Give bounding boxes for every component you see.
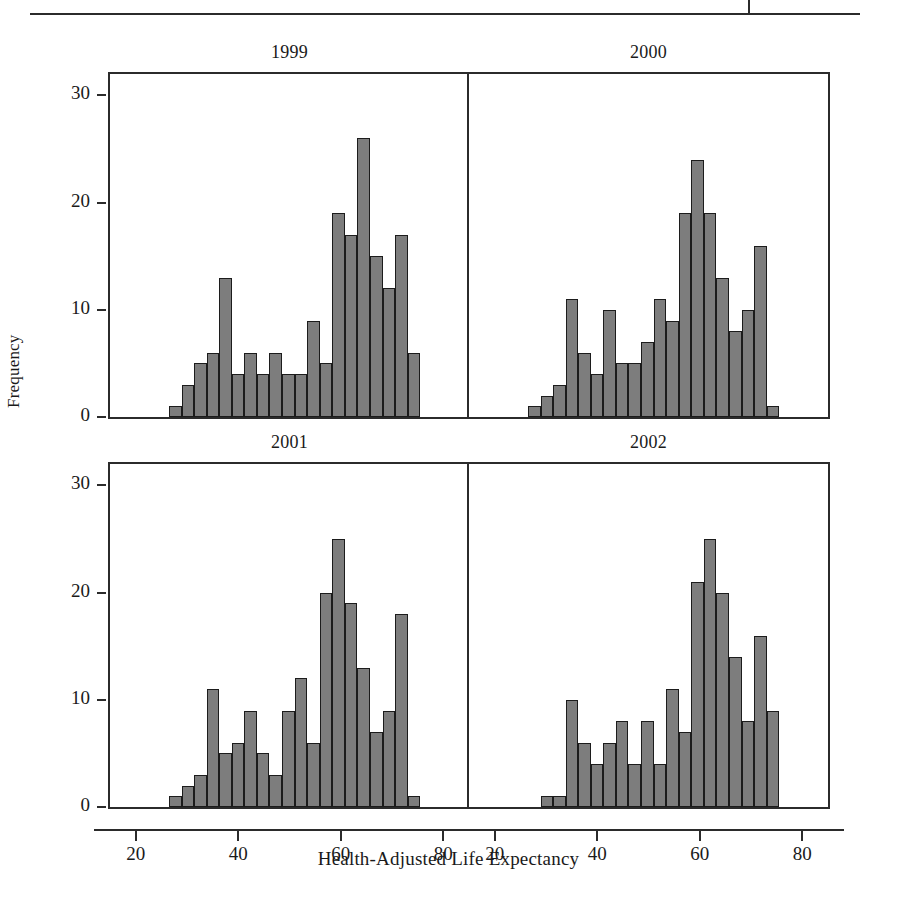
histogram-bar [169, 796, 182, 807]
histogram-bar [244, 353, 257, 417]
y-axis-tick [97, 309, 106, 311]
histogram-bar [528, 406, 541, 417]
histogram-bar [716, 593, 729, 807]
histogram-bar [591, 764, 604, 807]
histogram-bar [383, 711, 396, 807]
x-axis-tick-label: 60 [680, 843, 720, 865]
histogram-bar [244, 711, 257, 807]
plot-area-2002 [467, 462, 830, 809]
histogram-bar [767, 406, 780, 417]
plot-area-2000 [467, 72, 830, 419]
histogram-bar [332, 213, 345, 417]
x-axis-tick [442, 831, 444, 841]
histogram-bar [219, 753, 232, 807]
histogram-bar [691, 582, 704, 807]
y-axis-tick [97, 699, 106, 701]
histogram-bar [641, 342, 654, 417]
histogram-bar [729, 657, 742, 807]
histogram-bar [553, 796, 566, 807]
histogram-bar [320, 363, 333, 417]
histogram-bar [395, 235, 408, 417]
histogram-bar [207, 353, 220, 417]
x-axis-tick [237, 831, 239, 841]
histogram-bar [691, 160, 704, 417]
bar-series-1999 [110, 74, 469, 417]
panel-2000: 2000 [467, 42, 830, 489]
y-axis-tick-label: 20 [50, 190, 90, 212]
histogram-bar [729, 331, 742, 417]
histogram-bar [541, 796, 554, 807]
bar-series-2001 [110, 464, 469, 807]
histogram-bar [194, 363, 207, 417]
histogram-bar [194, 775, 207, 807]
histogram-bar [679, 213, 692, 417]
y-axis-tick [97, 416, 106, 418]
histogram-bar [578, 353, 591, 417]
histogram-bar [345, 235, 358, 417]
histogram-bar [679, 732, 692, 807]
histogram-bar [616, 363, 629, 417]
panel-1999: 19990102030 [108, 42, 471, 489]
histogram-bar [332, 539, 345, 807]
histogram-bar [754, 246, 767, 418]
histogram-bar [616, 721, 629, 807]
panel-2001: 2001010203020406080 [108, 432, 471, 879]
panel-title-2001: 2001 [108, 432, 471, 453]
plot-area-1999 [108, 72, 471, 419]
y-axis-tick [97, 592, 106, 594]
bar-series-2002 [469, 464, 828, 807]
histogram-bar [219, 278, 232, 417]
y-axis-tick [97, 202, 106, 204]
panel-2002: 200220406080 [467, 432, 830, 879]
histogram-bar [628, 764, 641, 807]
x-axis-tick [494, 831, 496, 841]
histogram-bar [553, 385, 566, 417]
histogram-bar [742, 721, 755, 807]
histogram-bar [716, 278, 729, 417]
histogram-bar [628, 363, 641, 417]
histogram-bar [269, 353, 282, 417]
histogram-bar [603, 743, 616, 807]
histogram-bar [282, 711, 295, 807]
histogram-bar [742, 310, 755, 417]
histogram-bar [370, 256, 383, 417]
y-axis-tick-label: 30 [50, 472, 90, 494]
x-axis-tick-label: 80 [423, 843, 463, 865]
histogram-bar [232, 743, 245, 807]
y-axis-tick [97, 94, 106, 96]
x-axis-tick-label: 60 [321, 843, 361, 865]
histogram-bar [566, 700, 579, 807]
y-axis-tick [97, 484, 106, 486]
bar-series-2000 [469, 74, 828, 417]
histogram-bar [307, 321, 320, 417]
histogram-bar [654, 764, 667, 807]
y-axis-tick-label: 0 [50, 794, 90, 816]
histogram-bar [566, 299, 579, 417]
histogram-bar [257, 374, 270, 417]
x-axis-tick [699, 831, 701, 841]
histogram-bar [345, 603, 358, 807]
histogram-bar [295, 374, 308, 417]
histogram-bar [357, 138, 370, 417]
histogram-bar [578, 743, 591, 807]
y-axis-tick-label: 20 [50, 580, 90, 602]
histogram-bar [654, 299, 667, 417]
histogram-bar [704, 213, 717, 417]
histogram-bar [169, 406, 182, 417]
histogram-bar [408, 796, 421, 807]
x-axis-tick-label: 40 [218, 843, 258, 865]
histogram-bar [408, 353, 421, 417]
histogram-bar [603, 310, 616, 417]
horizontal-rule [30, 13, 860, 15]
plot-area-2001 [108, 462, 471, 809]
y-axis-title: Frequency [4, 208, 26, 408]
histogram-bar [307, 743, 320, 807]
histogram-bar [269, 775, 282, 807]
histogram-bar [704, 539, 717, 807]
histogram-bar [232, 374, 245, 417]
y-axis-tick-label: 10 [50, 687, 90, 709]
histogram-bar [591, 374, 604, 417]
x-axis-tick-label: 40 [577, 843, 617, 865]
histogram-bar [295, 678, 308, 807]
histogram-bar [767, 711, 780, 807]
